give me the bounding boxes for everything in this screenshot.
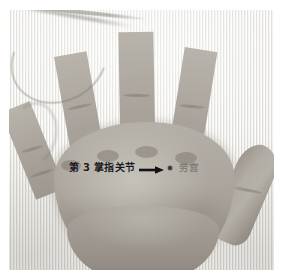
hand-photograph: 第 3 掌指关节 劳宫 (9, 10, 274, 270)
acupoint-dot-icon (168, 166, 172, 170)
page-margin-right (274, 0, 283, 280)
figure-container: 第 3 掌指关节 劳宫 (0, 0, 283, 280)
mcp-joint-label: 第 3 掌指关节 (69, 161, 135, 174)
page-margin-bottom (0, 270, 283, 280)
annotation-layer: 第 3 掌指关节 劳宫 (9, 10, 274, 270)
right-arrow-icon (139, 166, 165, 174)
page-margin-left (0, 0, 9, 280)
acupoint-label: 劳宫 (179, 161, 200, 174)
page-margin-top (0, 0, 283, 10)
